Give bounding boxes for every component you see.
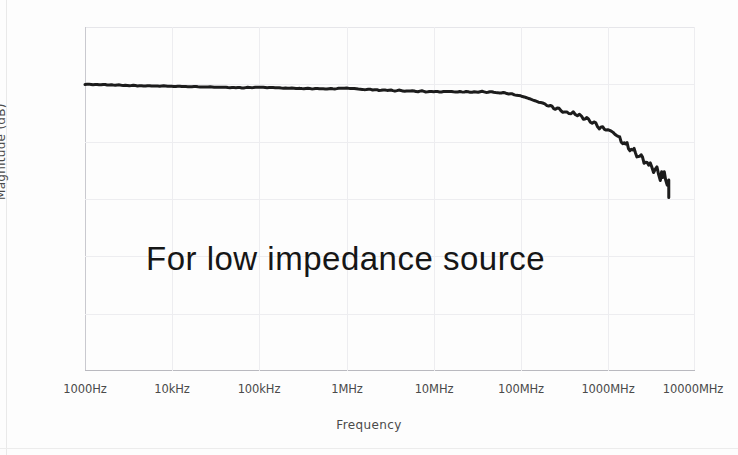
xtick-label: 1000MHz — [581, 382, 634, 396]
xtick-label: 1MHz — [331, 382, 363, 396]
xtick-label: 10MHz — [415, 382, 454, 396]
plot-area — [85, 27, 695, 371]
response-trace — [85, 27, 695, 371]
xtick-label: 10000MHz — [663, 382, 723, 396]
xtick-label: 10kHz — [154, 382, 189, 396]
y-axis-title: Magnitude (dB) — [0, 103, 8, 200]
chart-annotation: For low impedance source — [146, 240, 545, 278]
x-axis-title: Frequency — [0, 418, 738, 432]
frequency-response-chart: 2 0 ·2 ·4 ·6 ·8 ·10 Magnitude (dB) 1000H… — [0, 0, 738, 455]
xtick-label: 100MHz — [498, 382, 544, 396]
xtick-label: 100kHz — [238, 382, 281, 396]
xtick-label: 1000Hz — [63, 382, 106, 396]
